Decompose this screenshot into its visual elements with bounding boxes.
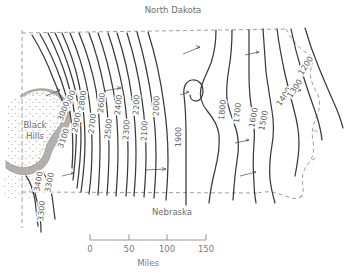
contour-label: 1300 [286,78,305,100]
scale-tick-label-150: 150 [198,244,214,254]
south-border [22,192,258,193]
scale-bar [90,234,206,240]
contour-label: 2100 [139,120,149,141]
flow-arrow-6 [245,51,259,55]
label-north-dakota: North Dakota [145,5,202,15]
label-black-hills-line2: Hills [26,131,44,141]
contour-label: 1200 [297,55,315,77]
contour-label: 2700 [87,113,98,134]
contour-label: 1500 [257,110,270,132]
label-black-hills-line1: Black [24,120,47,130]
contour-label: 1900 [174,127,183,148]
black-hills-stipple-sw [4,176,34,198]
label-nebraska: Nebraska [152,207,192,217]
contour-label: 2800 [77,90,89,111]
contour-label: 2400 [113,94,124,115]
contour-label: 1800 [217,99,228,120]
potentiometric-contour-map: 3000300030003000290029002800280031003100… [0,0,346,278]
scale-units-label: Miles [137,258,159,268]
flow-arrow-10 [62,172,74,176]
scale-tick-label-50: 50 [124,244,135,254]
southeast-border [258,192,303,199]
contour-label: 3300 [36,200,47,221]
scale-tick-label-0: 0 [87,244,92,254]
contour-label: 2300 [121,119,131,140]
east-border [286,29,320,199]
contour-label: 2000 [151,95,161,116]
contour-1900 [184,80,203,205]
flow-arrow-4 [183,46,200,54]
contour-label: 2500 [103,118,114,139]
contour-label: 2600 [96,92,107,113]
contour-label: 1700 [232,102,243,123]
flow-arrow-7 [235,139,249,143]
contour-label: 2200 [131,94,141,115]
river-tick-2 [312,157,318,160]
north-border [22,29,286,33]
map-svg: 3000300030003000290029002800280031003100… [0,0,346,278]
scale-tick-label-100: 100 [159,244,175,254]
river-tick-1 [314,130,320,133]
